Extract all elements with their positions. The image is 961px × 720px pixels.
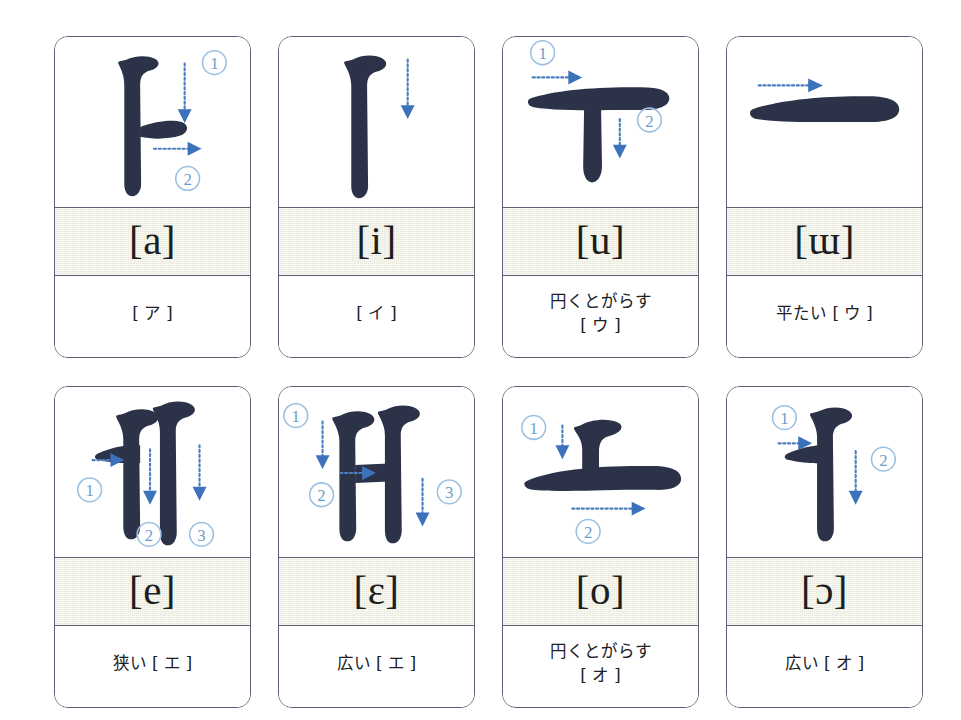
glyph-pane-a: 1 2 — [55, 37, 250, 207]
vowel-card-a[interactable]: 1 2 [a] [ ア ] — [54, 36, 251, 358]
stroke-number-2: 2 — [145, 526, 153, 545]
vowel-card-e[interactable]: 1 2 3 [e] 狭い [ エ ] — [54, 386, 251, 708]
arrowhead-2 — [143, 491, 157, 505]
stroke-number-3: 3 — [197, 526, 205, 545]
note-pane-ae: 広い [ エ ] — [279, 626, 474, 707]
jamo-stroke-vertical-2 — [153, 401, 195, 545]
ipa-label: [ɔ] — [801, 570, 848, 614]
ipa-band-eu: [ɯ] — [727, 207, 922, 276]
ipa-label: [ɛ] — [353, 570, 399, 614]
note-label: [ イ ] — [356, 302, 396, 325]
card-grid: 1 2 [a] [ ア ] — [54, 36, 922, 708]
ipa-band-u: [u] — [503, 207, 698, 276]
note-label: [ ア ] — [132, 302, 172, 325]
vowel-card-i[interactable]: [i] [ イ ] — [278, 36, 475, 358]
ipa-band-o: [o] — [503, 557, 698, 626]
arrowhead-2 — [849, 491, 863, 505]
glyph-pane-i — [279, 37, 474, 207]
stroke-number-2: 2 — [584, 523, 592, 542]
vowel-card-o[interactable]: 1 2 [o] 円くとがらす [ オ ] — [502, 386, 699, 708]
arrowhead-2 — [188, 142, 202, 156]
ipa-band-a: [a] — [55, 207, 250, 276]
stroke-diagram-eu — [727, 37, 922, 207]
note-pane-o: 円くとがらす [ オ ] — [503, 626, 698, 707]
arrowhead-1 — [568, 71, 582, 85]
stroke-diagram-eo: 1 2 — [727, 387, 922, 557]
arrowhead-1 — [178, 109, 192, 123]
stroke-number-2: 2 — [879, 451, 887, 470]
arrowhead-2 — [632, 502, 646, 516]
arrowhead-1 — [808, 78, 823, 92]
glyph-pane-eu — [727, 37, 922, 207]
note-pane-eu: 平たい [ ウ ] — [727, 276, 922, 357]
jamo-stroke-vertical — [344, 55, 386, 198]
note-label: 狭い [ エ ] — [113, 652, 193, 675]
ipa-band-ae: [ɛ] — [279, 557, 474, 626]
note-pane-eo: 広い [ オ ] — [727, 626, 922, 707]
stroke-diagram-ae: 1 2 3 — [279, 387, 474, 557]
glyph-pane-u: 1 2 — [503, 37, 698, 207]
arrowhead-1 — [555, 445, 569, 459]
stroke-diagram-a: 1 2 — [55, 37, 250, 207]
note-label: 円くとがらす [ ウ ] — [550, 290, 652, 337]
glyph-pane-ae: 1 2 3 — [279, 387, 474, 557]
vowel-card-ae[interactable]: 1 2 3 [ɛ] 広い [ エ ] — [278, 386, 475, 708]
note-label: 広い [ オ ] — [785, 652, 865, 675]
note-pane-u: 円くとがらす [ ウ ] — [503, 276, 698, 357]
jamo-stroke-horizontal — [750, 96, 899, 122]
stroke-number-2: 2 — [317, 486, 325, 505]
glyph-pane-o: 1 2 — [503, 387, 698, 557]
glyph-pane-eo: 1 2 — [727, 387, 922, 557]
ipa-label: [e] — [129, 570, 176, 614]
ipa-band-eo: [ɔ] — [727, 557, 922, 626]
ipa-band-e: [e] — [55, 557, 250, 626]
stroke-diagram-e: 1 2 3 — [55, 387, 250, 557]
stroke-number-1: 1 — [538, 44, 546, 63]
note-label: 平たい [ ウ ] — [776, 302, 873, 325]
vowel-card-eu[interactable]: [ɯ] 平たい [ ウ ] — [726, 36, 923, 358]
jamo-stroke-horizontal — [140, 121, 187, 139]
note-pane-e: 狭い [ エ ] — [55, 626, 250, 707]
vowel-card-eo[interactable]: 1 2 [ɔ] 広い [ オ ] — [726, 386, 923, 708]
arrowhead-1 — [401, 105, 415, 119]
note-pane-i: [ イ ] — [279, 276, 474, 357]
glyph-pane-e: 1 2 3 — [55, 387, 250, 557]
vowel-card-u[interactable]: 1 2 [u] 円くとがらす [ ウ ] — [502, 36, 699, 358]
stroke-number-2: 2 — [183, 170, 191, 189]
ipa-label: [i] — [356, 220, 396, 264]
ipa-band-i: [i] — [279, 207, 474, 276]
stroke-number-1: 1 — [780, 409, 788, 428]
arrowhead-1 — [316, 455, 330, 469]
jamo-stroke-vertical — [810, 407, 852, 541]
note-label: 円くとがらす [ オ ] — [550, 640, 652, 687]
jamo-stroke-horizontal — [524, 466, 681, 491]
stroke-diagram-i — [279, 37, 474, 207]
stroke-diagram-u: 1 2 — [503, 37, 698, 207]
arrowhead-3 — [416, 513, 430, 527]
worksheet-sheet: 1 2 [a] [ ア ] — [0, 0, 961, 720]
stroke-number-1: 1 — [85, 481, 93, 500]
note-label: 広い [ エ ] — [337, 652, 417, 675]
note-pane-a: [ ア ] — [55, 276, 250, 357]
stroke-number-1: 1 — [210, 54, 218, 73]
stroke-number-2: 2 — [645, 112, 653, 131]
jamo-stroke-vertical-1 — [116, 409, 158, 539]
arrowhead-2 — [613, 145, 627, 159]
arrowhead-3 — [193, 487, 207, 501]
stroke-number-3: 3 — [445, 483, 453, 502]
ipa-label: [u] — [576, 220, 625, 264]
stroke-number-1: 1 — [529, 419, 537, 438]
jamo-stroke-vertical — [574, 420, 622, 473]
stroke-diagram-o: 1 2 — [503, 387, 698, 557]
jamo-stroke-vertical — [583, 103, 602, 182]
ipa-label: [a] — [129, 220, 176, 264]
ipa-label: [o] — [576, 570, 625, 614]
stroke-number-1: 1 — [292, 407, 300, 426]
ipa-label: [ɯ] — [794, 220, 855, 264]
